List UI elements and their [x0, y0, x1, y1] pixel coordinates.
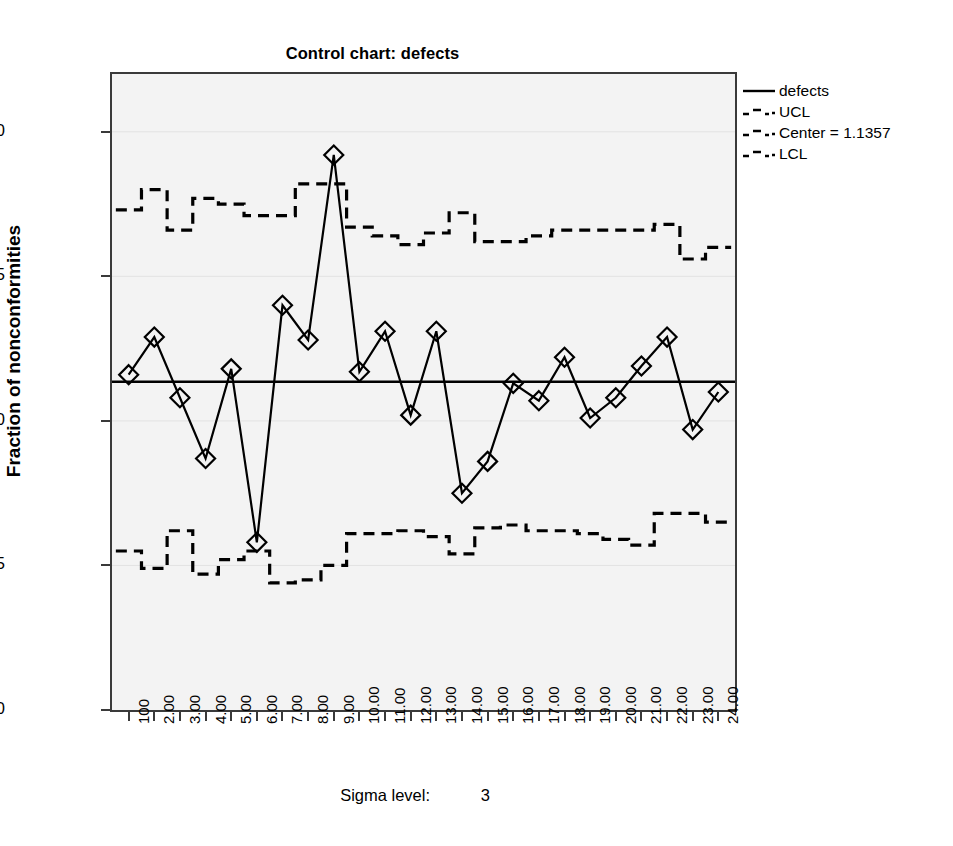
x-tick-mark — [205, 712, 207, 721]
x-tick-label: 15.00 — [494, 686, 511, 724]
y-tick-mark — [101, 564, 110, 566]
x-tick-label: 9.00 — [340, 695, 357, 724]
x-tick-label: 11.00 — [391, 688, 408, 724]
x-tick-label: 7.00 — [288, 695, 305, 724]
dashed-line-icon — [742, 147, 776, 161]
x-tick-mark — [410, 712, 412, 721]
x-tick-label: 24.00 — [724, 686, 741, 724]
y-tick-label: 1.0 — [0, 410, 5, 429]
x-tick-mark — [153, 712, 155, 721]
x-tick-label: 2.00 — [160, 695, 177, 724]
x-tick-mark — [487, 712, 489, 721]
y-tick-label: 2.0 — [0, 121, 5, 140]
x-tick-mark — [640, 712, 642, 721]
legend-item-center[interactable]: Center = 1.1357 — [742, 122, 950, 143]
x-tick-mark — [281, 712, 283, 721]
solid-line-icon — [742, 84, 776, 98]
x-tick-mark — [128, 712, 130, 721]
x-tick-mark — [179, 712, 181, 721]
x-tick-label: 17.00 — [545, 686, 562, 724]
y-tick-mark — [101, 709, 110, 711]
x-tick-label: 10.00 — [365, 686, 382, 724]
x-tick-label: 19.00 — [596, 686, 613, 724]
x-tick-label: 6.00 — [263, 695, 280, 724]
x-tick-label: 21.00 — [647, 686, 664, 724]
sigma-level-value: 3 — [481, 786, 490, 804]
page-title: Control chart: defects — [0, 44, 745, 63]
x-tick-mark — [589, 712, 591, 721]
legend-label: UCL — [779, 104, 810, 120]
x-tick-mark — [564, 712, 566, 721]
dashed-line-icon — [742, 105, 776, 119]
x-tick-mark — [717, 712, 719, 721]
y-tick-mark — [101, 420, 110, 422]
x-tick-mark — [256, 712, 258, 721]
x-tick-label: 16.00 — [519, 686, 536, 724]
y-tick-label: 0.0 — [0, 699, 5, 718]
legend-item-lcl[interactable]: LCL — [742, 143, 950, 164]
x-tick-label: 100 — [135, 699, 152, 724]
y-tick-mark — [101, 131, 110, 133]
y-axis-title: Fraction of nonconformities — [3, 141, 25, 561]
x-tick-mark — [333, 712, 335, 721]
dashed-line-icon — [742, 126, 776, 140]
x-tick-mark — [615, 712, 617, 721]
legend-label: Center = 1.1357 — [779, 125, 891, 141]
x-tick-mark — [461, 712, 463, 721]
x-tick-mark — [435, 712, 437, 721]
x-tick-label: 14.00 — [468, 686, 485, 724]
legend-item-ucl[interactable]: UCL — [742, 101, 950, 122]
x-tick-mark — [384, 712, 386, 721]
x-tick-label: 4.00 — [212, 695, 229, 724]
x-tick-label: 18.00 — [571, 686, 588, 724]
y-tick-label: 0.5 — [0, 554, 5, 573]
x-tick-label: 13.00 — [442, 686, 459, 724]
chart-canvas — [112, 74, 735, 710]
x-tick-mark — [692, 712, 694, 721]
x-tick-label: 23.00 — [699, 686, 716, 724]
x-tick-label: 12.00 — [417, 686, 434, 724]
x-tick-mark — [666, 712, 668, 721]
plot-area — [110, 72, 737, 712]
x-tick-label: 3.00 — [186, 695, 203, 724]
control-chart-page: Control chart: defects Fraction of nonco… — [0, 0, 953, 846]
y-tick-mark — [101, 275, 110, 277]
legend-item-defects[interactable]: defects — [742, 80, 950, 101]
x-tick-mark — [230, 712, 232, 721]
x-tick-mark — [538, 712, 540, 721]
legend-label: defects — [779, 83, 829, 99]
x-tick-label: 8.00 — [314, 695, 331, 724]
x-tick-label: 20.00 — [622, 686, 639, 724]
x-tick-mark — [512, 712, 514, 721]
sigma-level-label: Sigma level: — [340, 786, 430, 804]
x-tick-mark — [307, 712, 309, 721]
x-tick-label: 22.00 — [673, 686, 690, 724]
chart-legend: defectsUCLCenter = 1.1357LCL — [742, 80, 950, 164]
sigma-level-note: Sigma level: 3 — [0, 786, 830, 805]
x-tick-label: 5.00 — [237, 695, 254, 724]
x-tick-mark — [358, 712, 360, 721]
y-tick-label: 1.5 — [0, 265, 5, 284]
legend-label: LCL — [779, 146, 807, 162]
